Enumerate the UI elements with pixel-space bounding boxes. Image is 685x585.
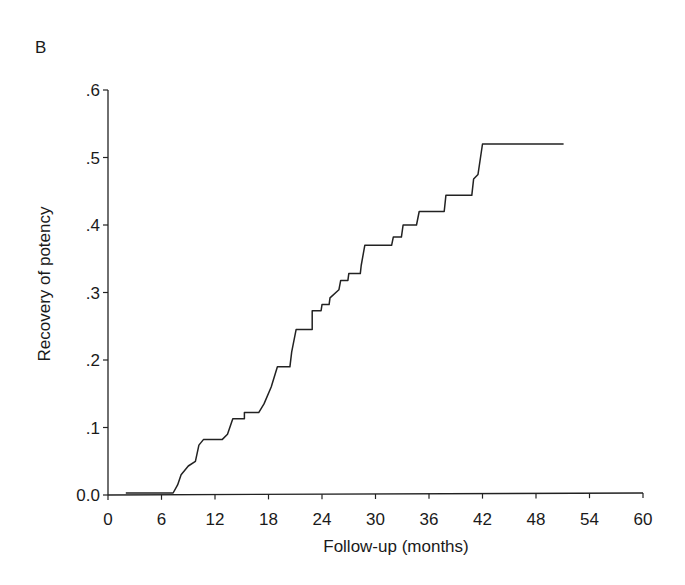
x-tick-label: 60 — [634, 510, 653, 529]
y-axis-title: Recovery of potency — [35, 206, 54, 361]
y-tick-label: .4 — [86, 216, 100, 235]
axes — [108, 90, 643, 495]
x-tick-label: 6 — [157, 510, 166, 529]
y-tick-label: .5 — [86, 149, 100, 168]
x-tick-label: 18 — [259, 510, 278, 529]
x-axis-title: Follow-up (months) — [323, 537, 469, 556]
y-tick-label: .2 — [86, 351, 100, 370]
step-curve-line — [126, 144, 564, 493]
x-tick-label: 42 — [473, 510, 492, 529]
x-tick-label: 24 — [313, 510, 332, 529]
x-tick-label: 12 — [206, 510, 225, 529]
y-tick-label: .3 — [86, 284, 100, 303]
y-tick-label: 0.0 — [76, 486, 100, 505]
x-tick-label: 0 — [103, 510, 112, 529]
data-series — [126, 144, 564, 493]
x-tick-label: 30 — [366, 510, 385, 529]
x-tick-label: 54 — [580, 510, 599, 529]
x-tick-label: 48 — [527, 510, 546, 529]
chart-plot: 06121824303642485460 0.0.1.2.3.4.5.6 Fol… — [0, 0, 685, 585]
y-tick-label: .1 — [86, 419, 100, 438]
x-tick-label: 36 — [420, 510, 439, 529]
x-axis-ticks: 06121824303642485460 — [103, 493, 652, 529]
y-tick-label: .6 — [86, 81, 100, 100]
y-axis-ticks: 0.0.1.2.3.4.5.6 — [76, 81, 108, 505]
